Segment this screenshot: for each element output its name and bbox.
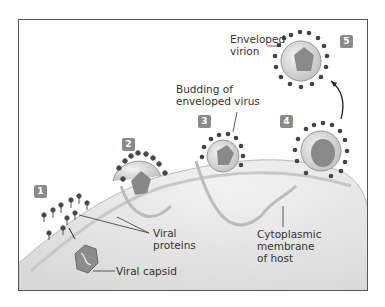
step-badge-2: 2 <box>122 138 135 151</box>
step-badge-5: 5 <box>340 35 353 48</box>
step-badge-4: 4 <box>280 115 293 128</box>
label-viral-proteins: Viral proteins <box>153 227 196 251</box>
step-badge-1: 1 <box>34 185 47 198</box>
diagram-frame: 1 2 3 4 5 Enveloped virion Budding of en… <box>18 19 368 291</box>
label-cytoplasmic-membrane: Cytoplasmic membrane of host <box>257 228 322 264</box>
step-badge-3: 3 <box>198 115 211 128</box>
label-viral-capsid: Viral capsid <box>116 265 177 277</box>
label-enveloped-virion: Enveloped virion <box>230 33 285 57</box>
label-budding: Budding of enveloped virus <box>176 83 260 107</box>
